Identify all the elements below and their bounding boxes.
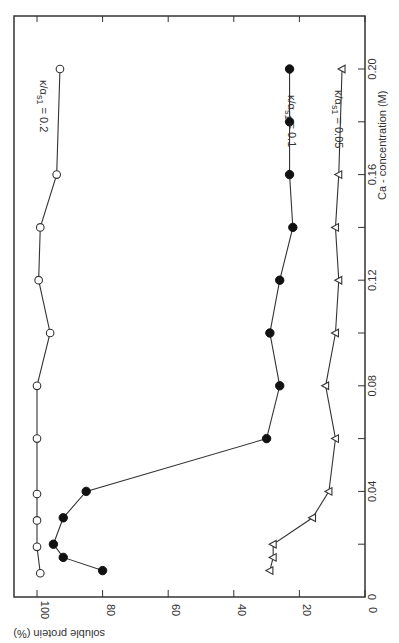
open-circle-marker	[33, 435, 41, 443]
y-tick-label: 100	[39, 601, 51, 619]
y-tick-label: 0	[367, 607, 379, 613]
open-circle-marker	[33, 490, 41, 498]
x-tick-label: 0.20	[366, 58, 378, 79]
filled-circle-marker	[266, 329, 274, 337]
open-circle-marker	[35, 276, 43, 284]
open-circle-marker	[53, 171, 61, 179]
series-label: κ/αs1 = 0.2	[35, 80, 50, 132]
open-circle-marker	[36, 569, 44, 577]
filled-circle-marker	[98, 566, 106, 574]
filled-circle-marker	[276, 382, 284, 390]
x-axis-title: Ca - concentration (M)	[376, 91, 388, 200]
series-label: κ/αs1 = 0.05	[330, 90, 345, 148]
axis-ticks	[37, 16, 365, 597]
open-circle-marker	[56, 65, 64, 73]
open-triangle-marker	[309, 514, 316, 522]
y-tick-label: 80	[105, 604, 117, 616]
series-1	[49, 65, 297, 575]
open-triangle-marker	[325, 488, 332, 496]
filled-circle-marker	[285, 65, 293, 73]
open-circle-marker	[46, 329, 54, 337]
series-labels: κ/αs1 = 0.2κ/αs1 = 0.1κ/αs1 = 0.05	[35, 80, 345, 148]
open-triangle-marker	[266, 567, 273, 575]
open-triangle-marker	[331, 224, 338, 232]
y-tick-label: 40	[236, 604, 248, 616]
plot-frame	[14, 16, 365, 597]
x-tick-label: 0.08	[366, 375, 378, 396]
open-circle-marker	[33, 517, 41, 525]
y-axis-title: soluble protein (%)	[13, 628, 105, 640]
filled-circle-marker	[59, 553, 67, 561]
filled-circle-marker	[289, 223, 297, 231]
filled-circle-marker	[82, 487, 90, 495]
x-tick-label: 0.04	[366, 481, 378, 502]
open-triangle-marker	[322, 382, 329, 390]
filled-circle-marker	[59, 514, 67, 522]
y-tick-label: 60	[170, 604, 182, 616]
filled-circle-marker	[276, 276, 284, 284]
x-tick-label: 0.12	[366, 269, 378, 290]
x-tick-label: 0	[366, 594, 378, 600]
filled-circle-marker	[262, 434, 270, 442]
y-tick-label: 20	[301, 604, 313, 616]
filled-circle-marker	[285, 170, 293, 178]
chart: 02040608010000.040.080.120.160.20 κ/αs1 …	[0, 0, 399, 643]
filled-circle-marker	[49, 540, 57, 548]
axis-tick-labels: 02040608010000.040.080.120.160.20	[39, 58, 379, 619]
open-circle-marker	[33, 543, 41, 551]
open-circle-marker	[33, 382, 41, 390]
series-0	[33, 65, 64, 577]
open-circle-marker	[36, 224, 44, 232]
